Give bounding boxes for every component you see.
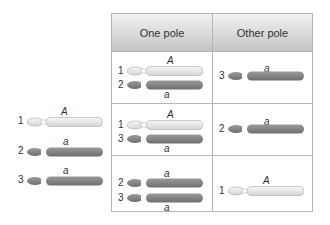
- allele-label: a: [164, 144, 170, 154]
- allele-label: a: [164, 90, 170, 100]
- chromosome-number: 2: [118, 178, 124, 188]
- chromosome-number: 1: [118, 120, 124, 130]
- chromosome-dark-icon: [27, 176, 103, 186]
- allele-label: A: [167, 110, 174, 120]
- chromosome-light-icon: [27, 117, 103, 127]
- header-other-pole: Other pole: [213, 14, 312, 51]
- chromosome-light-icon: [127, 66, 203, 76]
- allele-label: a: [164, 203, 170, 213]
- chromosome-number: 3: [118, 193, 124, 203]
- chromosome-number: 1: [118, 66, 124, 76]
- chromosome-number: 2: [118, 80, 124, 90]
- column-divider: [212, 14, 213, 211]
- row-divider: [112, 51, 312, 52]
- allele-label: a: [63, 137, 69, 147]
- chromosome-light-icon: [127, 120, 203, 130]
- allele-label: a: [63, 166, 69, 176]
- chromosome-number: 2: [219, 124, 225, 134]
- chromosome-light-icon: [228, 186, 304, 196]
- chromosome-number: 3: [18, 175, 24, 185]
- chromosome-number: 3: [219, 71, 225, 81]
- chromosome-dark-icon: [228, 124, 304, 134]
- chromosome-number: 1: [219, 186, 225, 196]
- chromosome-number: 1: [18, 116, 24, 126]
- chromosome-dark-icon: [27, 147, 103, 157]
- chromosome-number: 2: [18, 146, 24, 156]
- chromosome-dark-icon: [127, 178, 203, 188]
- header-one-pole: One pole: [112, 14, 212, 51]
- row-divider: [112, 103, 312, 104]
- chromosome-dark-icon: [228, 71, 304, 81]
- allele-label: A: [61, 107, 68, 117]
- allele-label: A: [263, 176, 270, 186]
- allele-label: A: [167, 56, 174, 66]
- row-divider: [112, 155, 312, 156]
- chromosome-number: 3: [118, 134, 124, 144]
